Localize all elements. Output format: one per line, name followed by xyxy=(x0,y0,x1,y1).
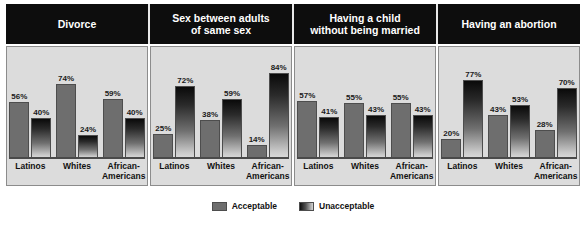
bar-unacceptable[interactable] xyxy=(269,73,289,159)
panel-header-same-sex: Sex between adults of same sex xyxy=(150,4,294,44)
bar-wrap-acceptable: 20% xyxy=(441,47,461,159)
bar-acceptable[interactable] xyxy=(344,103,364,159)
bar-value-label: 20% xyxy=(443,129,459,138)
category-line2: Americans xyxy=(244,171,291,181)
category-labels: Latinos Whites African- Americans xyxy=(151,159,291,185)
category-line1: Latinos xyxy=(295,161,342,171)
panel-header-abortion-line1: Having an abortion xyxy=(461,18,556,30)
bar-wrap-unacceptable: 70% xyxy=(557,47,577,159)
top-strip xyxy=(0,0,586,3)
bar-acceptable[interactable] xyxy=(103,99,123,159)
category-line2: Americans xyxy=(532,171,579,181)
bar-groups-child-unmarried: 57% 41% 55% 4 xyxy=(295,47,435,159)
bar-wrap-unacceptable: 72% xyxy=(175,47,195,159)
bar-wrap-acceptable: 38% xyxy=(200,47,220,159)
category-line1: African- xyxy=(388,161,435,171)
bar-value-label: 40% xyxy=(127,108,143,117)
bar-acceptable[interactable] xyxy=(391,103,411,159)
category-label-latinos: Latinos xyxy=(295,159,342,185)
category-label-whites: Whites xyxy=(54,159,101,185)
bar-unacceptable[interactable] xyxy=(319,117,339,159)
bar-unacceptable[interactable] xyxy=(125,118,145,159)
bar-wrap-unacceptable: 59% xyxy=(222,47,242,159)
panel-header-divorce-line1: Divorce xyxy=(58,18,97,30)
bar-value-label: 43% xyxy=(490,105,506,114)
bar-value-label: 53% xyxy=(512,95,528,104)
panel-header-divorce: Divorce xyxy=(6,4,150,44)
bar-wrap-unacceptable: 41% xyxy=(319,47,339,159)
bar-acceptable[interactable] xyxy=(297,101,317,159)
bar-unacceptable[interactable] xyxy=(222,99,242,159)
bar-value-label: 84% xyxy=(271,63,287,72)
bar-wrap-acceptable: 57% xyxy=(297,47,317,159)
legend-label-acceptable: Acceptable xyxy=(232,201,277,211)
bar-unacceptable[interactable] xyxy=(413,115,433,159)
panel-header-child-unmarried-line2: without being married xyxy=(310,24,420,36)
bar-value-label: 56% xyxy=(11,92,27,101)
bar-unacceptable[interactable] xyxy=(78,135,98,159)
bar-value-label: 55% xyxy=(346,93,362,102)
bar-acceptable[interactable] xyxy=(153,134,173,160)
panel-header-abortion: Having an abortion xyxy=(438,4,580,44)
category-line2: Americans xyxy=(100,171,147,181)
bar-value-label: 59% xyxy=(224,89,240,98)
legend-swatch-unacceptable-icon xyxy=(299,202,314,211)
panel-header-band: Divorce Sex between adults of same sex H… xyxy=(6,4,580,44)
bar-unacceptable[interactable] xyxy=(557,88,577,159)
bar-value-label: 55% xyxy=(393,93,409,102)
bar-wrap-acceptable: 55% xyxy=(344,47,364,159)
bar-group-african-americans: 55% 43% xyxy=(388,47,435,159)
bar-wrap-unacceptable: 40% xyxy=(125,47,145,159)
bar-unacceptable[interactable] xyxy=(175,86,195,159)
bar-wrap-acceptable: 74% xyxy=(56,47,76,159)
bar-unacceptable[interactable] xyxy=(366,115,386,159)
bar-wrap-unacceptable: 43% xyxy=(413,47,433,159)
bar-value-label: 72% xyxy=(177,76,193,85)
bar-group-latinos: 20% 77% xyxy=(439,47,486,159)
category-line1: Whites xyxy=(198,161,245,171)
bar-group-african-americans: 14% 84% xyxy=(244,47,291,159)
category-line1: African- xyxy=(532,161,579,171)
bar-acceptable[interactable] xyxy=(535,130,555,159)
bar-wrap-acceptable: 14% xyxy=(247,47,267,159)
bar-value-label: 57% xyxy=(299,91,315,100)
bar-value-label: 28% xyxy=(537,120,553,129)
bar-unacceptable[interactable] xyxy=(31,118,51,159)
chart-root: Divorce Sex between adults of same sex H… xyxy=(0,0,586,229)
bar-acceptable[interactable] xyxy=(9,102,29,159)
bar-acceptable[interactable] xyxy=(56,84,76,159)
panel-header-same-sex-line2: of same sex xyxy=(172,24,269,36)
bar-unacceptable[interactable] xyxy=(510,105,530,159)
bar-wrap-unacceptable: 53% xyxy=(510,47,530,159)
category-line1: Whites xyxy=(54,161,101,171)
category-label-african-americans: African- Americans xyxy=(244,159,291,185)
legend-item-acceptable[interactable]: Acceptable xyxy=(212,201,277,211)
bar-groups-divorce: 56% 40% 74% 2 xyxy=(7,47,147,159)
bar-group-whites: 55% 43% xyxy=(342,47,389,159)
bar-wrap-unacceptable: 24% xyxy=(78,47,98,159)
category-line1: Whites xyxy=(486,161,533,171)
bar-acceptable[interactable] xyxy=(200,120,220,159)
category-label-latinos: Latinos xyxy=(151,159,198,185)
chart-legend: Acceptable Unacceptable xyxy=(0,196,586,216)
bar-wrap-acceptable: 59% xyxy=(103,47,123,159)
bar-acceptable[interactable] xyxy=(488,115,508,159)
category-label-latinos: Latinos xyxy=(7,159,54,185)
panel-header-same-sex-line1: Sex between adults xyxy=(172,12,269,24)
category-label-african-americans: African- Americans xyxy=(388,159,435,185)
bar-value-label: 38% xyxy=(202,110,218,119)
chart-panel-abortion: 20% 77% 43% 5 xyxy=(438,46,580,186)
bar-unacceptable[interactable] xyxy=(463,80,483,159)
bar-wrap-unacceptable: 40% xyxy=(31,47,51,159)
category-line1: Latinos xyxy=(7,161,54,171)
category-label-whites: Whites xyxy=(198,159,245,185)
bar-value-label: 74% xyxy=(58,74,74,83)
legend-swatch-acceptable-icon xyxy=(212,202,227,211)
chart-panel-same-sex: 25% 72% 38% 5 xyxy=(150,46,292,186)
legend-item-unacceptable[interactable]: Unacceptable xyxy=(299,201,374,211)
category-line1: African- xyxy=(100,161,147,171)
category-label-whites: Whites xyxy=(486,159,533,185)
bar-group-african-americans: 28% 70% xyxy=(532,47,579,159)
bar-groups-same-sex: 25% 72% 38% 5 xyxy=(151,47,291,159)
bar-acceptable[interactable] xyxy=(441,139,461,159)
